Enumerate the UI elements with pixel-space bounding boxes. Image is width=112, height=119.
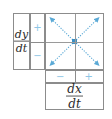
grid-horizontal-axis: [46, 42, 103, 43]
arrow-up-left-icon: [52, 19, 75, 42]
arrow-down-left-icon: [52, 42, 75, 65]
arrow-up-right-icon: [75, 19, 98, 42]
sign-table-diagram: dy dt + −: [0, 0, 112, 119]
dxdt-fraction: dx dt: [46, 82, 103, 111]
dxdt-denominator: dt: [46, 98, 103, 111]
dydt-denominator: dt: [14, 43, 29, 55]
vertical-axis-label-cell: dy dt: [13, 13, 30, 70]
vertical-sign-column: + −: [30, 13, 45, 70]
vertical-sign-negative: −: [31, 51, 44, 61]
vertical-sign-divider: [31, 42, 44, 43]
arrow-down-right-icon: [75, 42, 98, 65]
quadrant-grid: [45, 13, 104, 70]
horizontal-axis-label-cell: dx dt: [45, 83, 104, 110]
dydt-numerator: dy: [14, 28, 29, 40]
dydt-fraction: dy dt: [14, 28, 29, 55]
vertical-sign-positive: +: [31, 23, 44, 33]
dxdt-numerator: dx: [46, 82, 103, 95]
